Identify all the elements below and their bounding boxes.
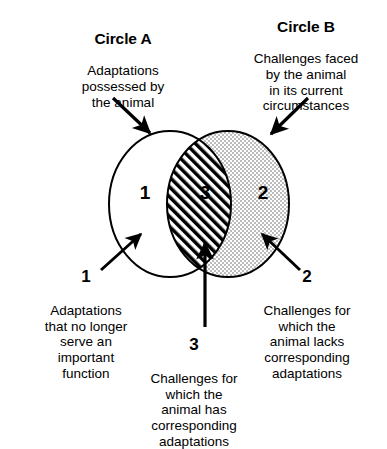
circle-b-description: Challenges faced by the animal in its cu…: [230, 51, 382, 114]
circle-b-title: Circle B: [230, 18, 382, 36]
callout-region-3: 3 Challenges for which the animal has co…: [116, 320, 272, 449]
circle-a-description: Adaptations possessed by the animal: [36, 63, 210, 110]
callout-number-1: 1: [6, 268, 166, 287]
callout-label-1: Adaptations that no longer serve an impo…: [45, 303, 128, 381]
circle-a-title: Circle A: [36, 30, 210, 48]
circle-b-caption: Circle B Challenges faced by the animal …: [230, 2, 382, 130]
callout-label-2: Challenges for which the animal lacks co…: [263, 303, 350, 381]
circle-a-caption: Circle A Adaptations possessed by the an…: [36, 14, 210, 126]
region-number-1: 1: [133, 183, 157, 202]
callout-number-2: 2: [231, 268, 383, 287]
callout-number-3: 3: [116, 336, 272, 355]
callout-label-3: Challenges for which the animal has corr…: [150, 371, 237, 449]
region-number-3: 3: [193, 183, 217, 202]
region-number-2: 2: [251, 183, 275, 202]
